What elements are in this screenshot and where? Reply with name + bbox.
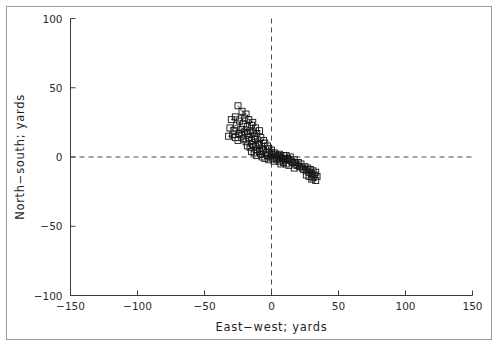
x-tick-label: −50 [193, 300, 215, 312]
y-tick-label: −50 [40, 220, 62, 232]
y-axis-title: North−south; yards [13, 94, 27, 220]
x-tick-labels: −150−100−50050100150 [56, 300, 482, 312]
scatter-plot: −150−100−50050100150 −100−50050100 East−… [0, 0, 499, 347]
axis-group: −150−100−50050100150 −100−50050100 [34, 13, 483, 312]
x-tick-label: −100 [123, 300, 152, 312]
x-axis-title: East−west; yards [216, 320, 328, 334]
x-tick-label: 100 [395, 300, 415, 312]
y-tick-labels: −100−50050100 [34, 13, 63, 302]
y-tick-label: 50 [49, 82, 62, 94]
data-point-markers [226, 103, 320, 184]
x-tick-label: 50 [332, 300, 345, 312]
figure-container: −150−100−50050100150 −100−50050100 East−… [0, 0, 499, 347]
y-tick-label: 0 [56, 151, 63, 163]
x-tick-label: 150 [462, 300, 482, 312]
y-tick-label: 100 [42, 13, 62, 25]
x-tick-label: 0 [268, 300, 275, 312]
y-tick-label: −100 [34, 290, 63, 302]
data-series-group [226, 103, 320, 184]
